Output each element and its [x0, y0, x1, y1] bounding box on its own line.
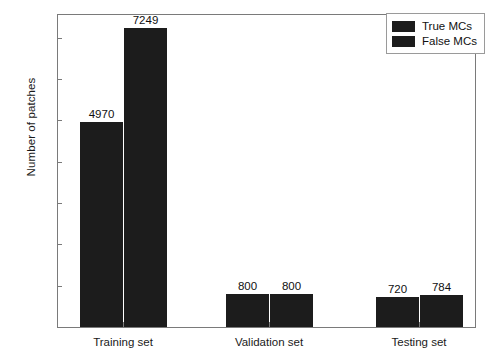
bar	[226, 294, 269, 327]
legend-item-label: False MCs	[422, 35, 477, 47]
bar-value-label: 7249	[111, 14, 181, 26]
bar	[270, 294, 313, 327]
y-axis-tick-mark	[58, 162, 62, 163]
chart-legend[interactable]: True MCsFalse MCs	[386, 13, 485, 54]
bar	[124, 28, 167, 327]
y-axis-tick-mark	[58, 327, 62, 328]
x-axis-tick-label: Validation set	[199, 336, 339, 348]
legend-item[interactable]: False MCs	[392, 34, 477, 48]
bar	[420, 295, 463, 327]
plot-inner: 01000200030004000500060007000Training se…	[58, 15, 475, 327]
x-axis-tick-label: Training set	[53, 336, 193, 348]
y-axis-tick-mark	[58, 38, 62, 39]
legend-swatch-icon	[392, 36, 415, 47]
y-axis-tick-mark	[58, 286, 62, 287]
bar-chart-figure: Number of patches 0100020003000400050006…	[0, 0, 491, 359]
bar	[80, 122, 123, 327]
bar	[376, 297, 419, 327]
y-axis-tick-mark	[58, 203, 62, 204]
bar-value-label: 800	[257, 280, 327, 292]
plot-area: 01000200030004000500060007000Training se…	[57, 14, 476, 328]
y-axis-tick-mark	[58, 120, 62, 121]
legend-item[interactable]: True MCs	[392, 19, 477, 33]
bar-value-label: 784	[407, 281, 477, 293]
y-axis-tick-mark	[58, 79, 62, 80]
legend-item-label: True MCs	[422, 20, 472, 32]
y-axis-tick-mark	[58, 244, 62, 245]
y-axis-title: Number of patches	[25, 47, 37, 207]
legend-swatch-icon	[392, 21, 415, 32]
x-axis-tick-label: Testing set	[349, 336, 489, 348]
